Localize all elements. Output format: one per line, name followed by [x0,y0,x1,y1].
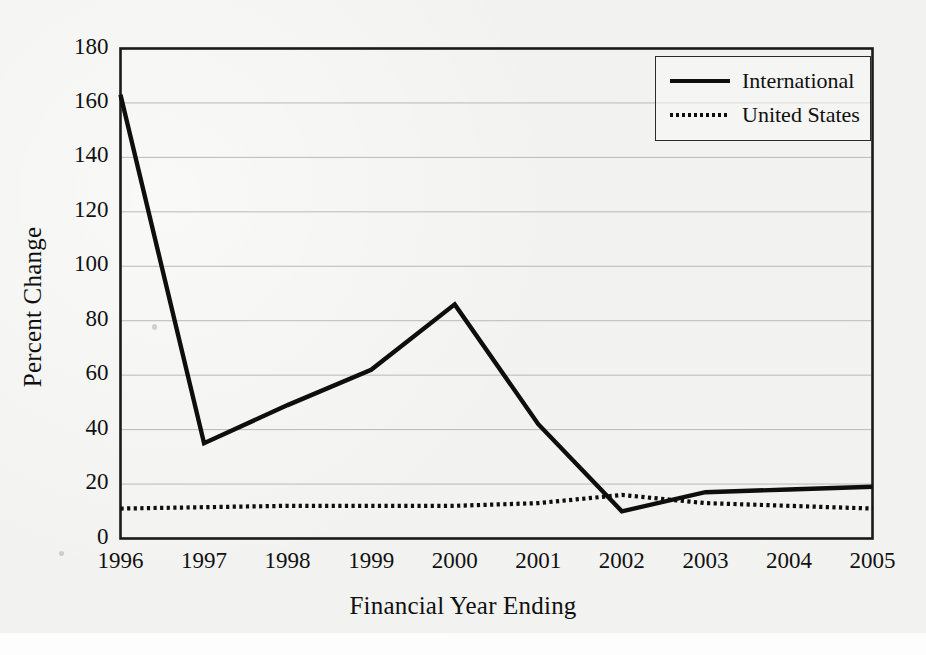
y-tick-label: 80 [43,306,109,332]
chart-legend: International United States [655,56,871,141]
legend-label-international: International [742,68,854,94]
x-tick-label: 2000 [410,548,500,574]
x-tick-label: 2005 [828,548,918,574]
x-tick-label: 2002 [577,548,667,574]
legend-swatch-dotted-icon [670,107,730,123]
y-tick-label: 160 [43,88,109,114]
x-tick-label: 1999 [326,548,416,574]
gridlines [122,103,872,484]
y-tick-label: 40 [43,415,109,441]
x-tick-label: 1996 [76,548,166,574]
y-tick-label: 20 [43,469,109,495]
y-axis-title: Percent Change [19,212,47,402]
y-tick-label: 120 [43,197,109,223]
y-tick-label: 60 [43,360,109,386]
y-tick-label: 140 [43,142,109,168]
y-tick-label: 180 [43,34,109,60]
x-tick-label: 2001 [493,548,583,574]
legend-label-united-states: United States [742,102,860,128]
chart-figure: 020406080100120140160180 199619971998199… [0,0,926,655]
x-tick-label: 2004 [744,548,834,574]
y-tick-label: 0 [43,524,109,550]
x-tick-label: 1997 [159,548,249,574]
y-tick-label: 100 [43,251,109,277]
x-tick-label: 1998 [243,548,333,574]
x-tick-label: 2003 [660,548,750,574]
legend-swatch-solid-icon [670,73,730,89]
legend-item-international: International [670,68,854,94]
series-line-united-states [121,495,873,509]
legend-item-united-states: United States [670,102,860,128]
x-axis-title: Financial Year Ending [0,592,926,620]
